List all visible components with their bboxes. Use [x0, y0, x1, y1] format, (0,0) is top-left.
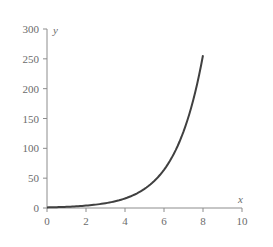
y-tick-label: 200: [23, 83, 40, 95]
x-tick-label: 8: [200, 215, 206, 227]
exponential-chart: 050100150200250300 0246810 y x: [0, 0, 273, 247]
x-axis-label: x: [237, 193, 243, 205]
x-tick-label: 10: [237, 215, 249, 227]
y-tick-label: 300: [23, 23, 40, 35]
x-tick-label: 4: [122, 215, 128, 227]
y-tick-label: 150: [23, 113, 40, 125]
x-tick-label: 2: [83, 215, 89, 227]
x-tick-label: 0: [44, 215, 50, 227]
y-tick-label: 100: [23, 142, 40, 154]
y-tick-label: 0: [34, 202, 40, 214]
y-tick-label: 50: [28, 172, 40, 184]
y-axis-ticks: 050100150200250300: [23, 23, 48, 214]
y-tick-label: 250: [23, 53, 40, 65]
x-axis-ticks: 0246810: [44, 208, 248, 227]
x-tick-label: 6: [161, 215, 167, 227]
data-curve: [47, 55, 203, 207]
y-axis-label: y: [52, 24, 58, 36]
